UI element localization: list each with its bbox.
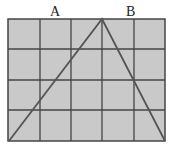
grid-diagram <box>0 0 177 150</box>
label-b: B <box>126 5 135 19</box>
label-a: A <box>50 5 60 19</box>
